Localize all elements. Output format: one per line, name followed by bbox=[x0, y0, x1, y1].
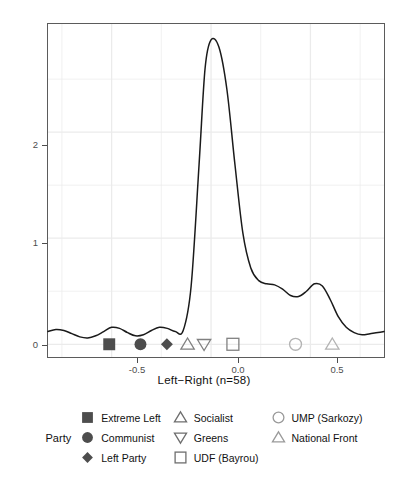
x-tick-mark-1 bbox=[238, 358, 239, 363]
legend-column: SocialistGreensUDF (Bayrou) bbox=[171, 408, 259, 468]
point-marker bbox=[326, 338, 339, 349]
legend-title: Party bbox=[46, 432, 72, 444]
square-filled-icon bbox=[78, 408, 97, 427]
y-tick-label-1: 1 bbox=[22, 237, 38, 248]
circle-filled-icon bbox=[78, 428, 97, 447]
legend-item-label: Extreme Left bbox=[101, 412, 161, 424]
legend-item: Communist bbox=[78, 428, 161, 448]
point-marker bbox=[134, 338, 146, 350]
legend-item-label: Greens bbox=[194, 432, 228, 444]
point-marker bbox=[290, 338, 302, 350]
legend-item: National Front bbox=[269, 428, 363, 448]
legend-item-label: UDF (Bayrou) bbox=[194, 452, 259, 464]
legend-item: Greens bbox=[171, 428, 259, 448]
point-marker bbox=[103, 338, 115, 350]
plot-panel bbox=[47, 23, 385, 358]
x-axis-title: Left−Right (n=58) bbox=[0, 374, 408, 386]
point-marker bbox=[227, 338, 239, 350]
legend-item: Socialist bbox=[171, 408, 259, 428]
point-marker bbox=[197, 340, 210, 351]
point-marker bbox=[161, 338, 173, 350]
density-plot-figure: Density 0 1 2 -0.5 0.0 0.5 Left−Right (n… bbox=[0, 0, 408, 482]
legend-item: Left Party bbox=[78, 448, 161, 468]
triangle-open-icon bbox=[171, 408, 190, 427]
legend-column: UMP (Sarkozy)National Front bbox=[269, 408, 363, 468]
diamond-filled-icon bbox=[78, 448, 97, 467]
y-tick-label-2: 2 bbox=[22, 139, 38, 150]
x-tick-mark-0 bbox=[137, 358, 138, 363]
x-tick-mark-2 bbox=[337, 358, 338, 363]
legend: Party Extreme LeftCommunistLeft PartySoc… bbox=[0, 400, 408, 475]
legend-column: Extreme LeftCommunistLeft Party bbox=[78, 408, 161, 468]
legend-item-label: National Front bbox=[292, 432, 358, 444]
legend-columns: Extreme LeftCommunistLeft PartySocialist… bbox=[78, 408, 362, 468]
legend-item: UDF (Bayrou) bbox=[171, 448, 259, 468]
triangle-down-open-icon bbox=[171, 428, 190, 447]
point-marker bbox=[181, 338, 194, 349]
y-tick-label-0: 0 bbox=[22, 339, 38, 350]
triangle-open-icon bbox=[269, 428, 288, 447]
legend-item-label: Communist bbox=[101, 432, 154, 444]
circle-open-icon bbox=[269, 408, 288, 427]
legend-item: UMP (Sarkozy) bbox=[269, 408, 363, 428]
legend-item-label: Socialist bbox=[194, 412, 233, 424]
legend-item-label: UMP (Sarkozy) bbox=[292, 412, 363, 424]
plot-area: Density 0 1 2 -0.5 0.0 0.5 Left−Right (n… bbox=[0, 0, 408, 395]
legend-item: Extreme Left bbox=[78, 408, 161, 428]
square-open-icon bbox=[171, 448, 190, 467]
party-point-markers bbox=[48, 24, 384, 357]
legend-item-label: Left Party bbox=[101, 452, 146, 464]
